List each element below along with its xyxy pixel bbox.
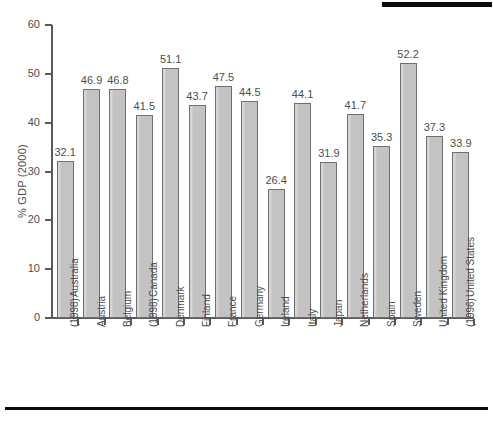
y-axis-tick [45,219,52,221]
bar-value-label: 44.5 [233,87,267,98]
bar-value-label: 35.3 [365,132,399,143]
category-label-line: Austria [96,296,107,327]
bar[interactable] [162,68,179,318]
category-label-line: Belgium [122,291,133,327]
bar-value-label: 47.5 [206,72,240,83]
y-axis-tick-label: 10 [10,263,40,273]
bar-value-label: 41.7 [338,100,372,111]
bar-chart-figure: % GDP (2000) 0102030405060 32.146.946.84… [0,0,493,400]
bar-value-label: 51.1 [154,54,188,65]
bar-value-label: 32.1 [48,147,82,158]
category-label-line: Canada [148,262,159,297]
bar[interactable] [373,146,390,318]
category-label-line: Japan [333,300,344,327]
category-label-line: Denmark [175,286,186,327]
bar[interactable] [400,63,417,318]
category-label-line: (1996) [465,298,476,327]
bar[interactable] [320,162,337,318]
bar[interactable] [215,86,232,318]
y-axis-tick-label: 30 [10,166,40,176]
y-axis-tick [45,317,52,319]
category-label-line: Spain [386,301,397,327]
category-label-line: United Kingdom [438,256,449,327]
category-label-line: Australia [69,258,80,297]
y-axis-tick [45,268,52,270]
y-axis-tick-label: 50 [10,68,40,78]
bar[interactable] [83,89,100,318]
category-label-line: United States [465,237,476,297]
bar-value-label: 52.2 [391,49,425,60]
category-label-line: Italy [307,309,318,327]
category-label-line: (1998) [69,298,80,327]
bar-value-label: 37.3 [417,122,451,133]
bar[interactable] [109,89,126,318]
bar-value-label: 41.5 [127,101,161,112]
bar-value-label: 46.8 [101,75,135,86]
bar[interactable] [189,105,206,318]
category-label-line: Sweden [412,291,423,327]
bar-value-label: 31.9 [312,148,346,159]
category-label-line: Ireland [280,296,291,327]
y-axis-tick [45,73,52,75]
y-axis-tick-label: 20 [10,214,40,224]
bar[interactable] [294,103,311,318]
y-axis-tick-label: 60 [10,19,40,29]
y-axis-tick [45,171,52,173]
plot-area: 32.146.946.841.551.143.747.544.526.444.1… [52,25,474,318]
y-axis-tick-label: 0 [10,312,40,322]
category-label-line: Netherlands [359,273,370,327]
bar-value-label: 26.4 [259,175,293,186]
category-label-line: France [227,296,238,327]
category-label-line: Finland [201,294,212,327]
category-label-line: Germany [254,286,265,327]
bar-value-label: 33.9 [444,138,478,149]
bottom-horizontal-rule [5,407,488,410]
bar-value-label: 43.7 [180,91,214,102]
bar-value-label: 44.1 [286,89,320,100]
y-axis-tick [45,24,52,26]
category-label-line: (1998) [148,298,159,327]
y-axis-tick [45,122,52,124]
y-axis-tick-label: 40 [10,117,40,127]
